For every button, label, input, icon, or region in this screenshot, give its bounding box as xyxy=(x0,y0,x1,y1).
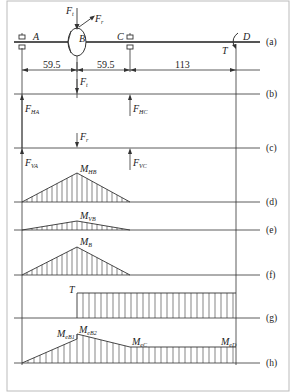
label-Fr: Fr xyxy=(94,13,104,25)
label-FHC: FHC xyxy=(132,103,148,115)
dimension-BC: 59.5 xyxy=(97,59,115,70)
label-MB: MB xyxy=(79,236,92,248)
panel-tag-f: (f) xyxy=(266,270,276,281)
panel-c-vertical-loads: Fr FVA FVC (c) xyxy=(14,131,277,170)
torque-arc-icon xyxy=(233,33,238,46)
label-MVB: MVB xyxy=(79,210,96,222)
reaction-VC-arrow xyxy=(128,148,132,154)
panel-tag-g: (g) xyxy=(266,313,277,324)
label-MHB: MHB xyxy=(79,163,97,175)
label-MeB1: MeB1 xyxy=(56,328,75,340)
panel-tag-a: (a) xyxy=(266,37,277,48)
label-Ft: Ft xyxy=(65,5,74,17)
reaction-HA-arrow xyxy=(20,94,24,100)
label-C: C xyxy=(117,31,124,42)
label-MeB2: MeB2 xyxy=(78,324,97,336)
label-T: T xyxy=(222,45,229,56)
label-FVC: FVC xyxy=(132,157,148,169)
label-MeC: MeC xyxy=(131,336,148,348)
dimension-line: 59.5 59.5 113 xyxy=(22,59,260,98)
dimension-CD: 113 xyxy=(175,59,190,70)
panel-tag-d: (d) xyxy=(266,197,277,208)
reaction-HC-arrow xyxy=(128,94,132,100)
dimension-AB: 59.5 xyxy=(43,59,61,70)
panel-h-equivalent-moment: MeB1 MeB2 MeC MeD (h) xyxy=(14,324,277,369)
panel-b-horizontal-loads: Ft FHA FHC (b) xyxy=(14,76,277,148)
panel-e-moment-vertical: MVB (e) xyxy=(14,210,277,236)
label-T: T xyxy=(69,284,76,295)
panel-tag-h: (h) xyxy=(266,358,277,369)
label-b-load: Ft xyxy=(79,76,88,88)
shaft-load-diagram: Ft Fr A B C D T (a) 59.5 59.5 113 Ft FHA… xyxy=(0,0,298,392)
panel-tag-b: (b) xyxy=(266,89,277,100)
label-B: B xyxy=(79,33,85,44)
panel-tag-e: (e) xyxy=(266,225,277,236)
label-c-load: Fr xyxy=(79,131,89,143)
label-FHA: FHA xyxy=(24,103,39,115)
panel-d-moment-horizontal: MHB (d) xyxy=(14,163,277,208)
bearing-C-icon xyxy=(127,33,133,72)
label-MeD: MeD xyxy=(220,336,237,348)
label-A: A xyxy=(32,31,40,42)
panel-g-torque: T (g) xyxy=(14,284,277,324)
reaction-VA-arrow xyxy=(20,148,24,154)
panel-tag-c: (c) xyxy=(266,143,277,154)
label-FVA: FVA xyxy=(24,157,38,169)
label-D: D xyxy=(242,31,251,42)
